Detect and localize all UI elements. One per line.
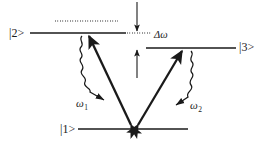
transition-label-omega-1: ω1 (76, 98, 88, 112)
pump-arrow-right (138, 51, 182, 125)
detuning-label-delta-omega: Δω (154, 30, 168, 41)
pump-arrow-left (89, 36, 131, 125)
wavy-arrow-omega-1 (80, 36, 104, 100)
omega-1-symbol: ω (76, 97, 84, 109)
wavy-arrow-omega-2 (176, 51, 193, 105)
energy-level-diagram: |2> |3> |1> ω1 ω2 Δω (0, 0, 276, 142)
diagram-canvas (0, 0, 276, 142)
transition-label-omega-2: ω2 (190, 100, 202, 114)
level-label-state-2: |2> (9, 27, 24, 39)
level-label-state-3: |3> (239, 41, 254, 53)
level-label-state-1: |1> (60, 123, 75, 135)
omega-2-symbol: ω (190, 99, 198, 111)
pump-transition-arrows (89, 36, 182, 125)
omega-2-subscript: 2 (198, 105, 202, 114)
level-lines (30, 33, 236, 129)
omega-1-subscript: 1 (84, 103, 88, 112)
